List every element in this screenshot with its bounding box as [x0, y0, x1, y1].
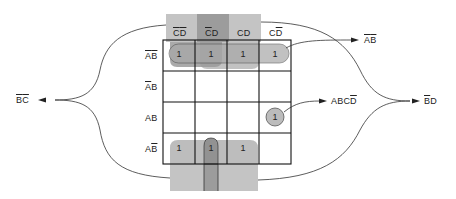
col-header-1: CD: [173, 28, 186, 38]
row-header-4: AB: [145, 144, 157, 154]
curve-bc-bottom: [55, 100, 170, 178]
cell-r1-c4: 1: [259, 49, 291, 59]
curve-abcd: [284, 101, 320, 112]
cell-r1-c1: 1: [163, 49, 195, 59]
arrow-right-abcd-icon: [319, 99, 327, 104]
cell-r4-c2: 1: [195, 143, 227, 153]
shade-bottom-col2-dark: [204, 163, 218, 191]
col-header-3: CD: [237, 28, 250, 38]
col-header-4: CD: [269, 28, 282, 38]
cell-r1-c3: 1: [227, 49, 259, 59]
cell-r1-c2: 1: [195, 49, 227, 59]
row-header-3: AB: [145, 113, 157, 123]
cell-r4-c1: 1: [163, 143, 195, 153]
term-label-abcd: ABCD: [331, 96, 357, 106]
cell-r3-c4: 1: [259, 112, 291, 122]
karnaugh-map-diagram: [0, 0, 456, 199]
cell-r4-c3: 1: [227, 143, 259, 153]
arrow-right-bd-icon: [412, 99, 420, 104]
arrow-left-icon: [38, 98, 46, 103]
term-label-bc: BC: [16, 95, 29, 105]
term-label-ab: AB: [364, 35, 376, 45]
curve-ab: [286, 40, 352, 48]
term-label-bd: BD: [424, 96, 437, 106]
shade-bottom-col1: [170, 163, 198, 191]
arrow-right-ab-icon: [351, 38, 359, 43]
row-header-2: AB: [145, 82, 157, 92]
col-header-2: CD: [205, 28, 218, 38]
row-header-1: AB: [145, 51, 157, 61]
